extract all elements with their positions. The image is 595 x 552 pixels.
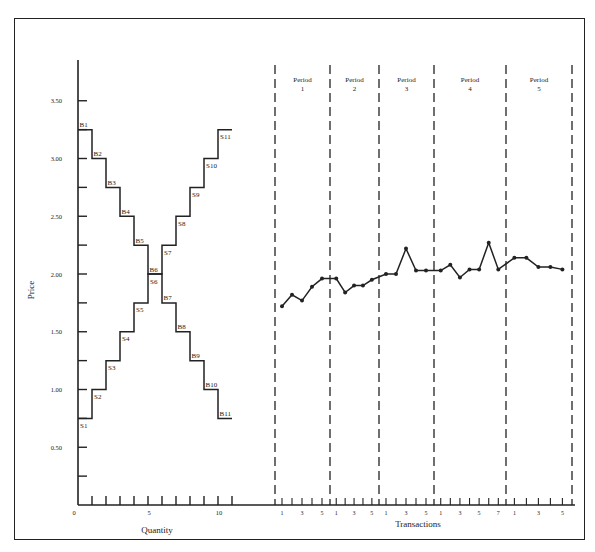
transaction-tick-label: 3 <box>301 510 304 516</box>
transaction-point <box>458 275 462 279</box>
period-label: Period <box>293 76 312 84</box>
transaction-point <box>352 284 356 288</box>
transaction-point <box>487 241 491 245</box>
y-tick-label: 3.50 <box>51 97 62 104</box>
period-label: Period <box>397 76 416 84</box>
buyer-label: B8 <box>178 323 187 331</box>
transaction-tick-label: 7 <box>497 510 500 516</box>
seller-label: S9 <box>192 191 200 199</box>
seller-label: S4 <box>122 335 130 343</box>
transaction-point <box>384 272 388 276</box>
transaction-tick-label: 5 <box>321 510 324 516</box>
y-tick-label: 2.00 <box>51 271 62 278</box>
transaction-point <box>468 267 472 271</box>
price-axis-label: Price <box>26 281 36 300</box>
buyer-label: B3 <box>108 179 117 187</box>
buyer-label: B9 <box>192 352 201 360</box>
x-tick-label: 5 <box>147 509 150 516</box>
transaction-price-line <box>282 243 562 307</box>
period-number: 3 <box>405 85 409 93</box>
buyer-label: B11 <box>220 410 232 418</box>
period-label: Period <box>345 76 364 84</box>
transaction-tick-label: 1 <box>281 510 284 516</box>
seller-label: S2 <box>94 393 102 401</box>
transaction-point <box>280 304 284 308</box>
transaction-point <box>334 277 338 281</box>
transaction-point <box>548 265 552 269</box>
seller-label: S6 <box>150 278 158 286</box>
transaction-tick-label: 3 <box>405 510 408 516</box>
buyer-label: B6 <box>150 266 159 274</box>
transaction-point <box>448 263 452 267</box>
period-dividers: Period1135Period2135Period3135Period4135… <box>275 65 572 516</box>
transaction-point <box>290 293 294 297</box>
period-number: 1 <box>301 85 305 93</box>
transaction-point <box>536 265 540 269</box>
transaction-point <box>512 256 516 260</box>
transaction-point <box>560 267 564 271</box>
seller-label: S7 <box>164 249 172 257</box>
transaction-tick-label: 5 <box>561 510 564 516</box>
transaction-tick-label: 5 <box>478 510 481 516</box>
origin-label: 0 <box>72 509 75 516</box>
y-tick-label: 3.00 <box>51 155 62 162</box>
seller-label: S10 <box>206 162 217 170</box>
buyer-label: B10 <box>206 381 218 389</box>
transaction-tick-label: 1 <box>385 510 388 516</box>
period-number: 4 <box>468 85 472 93</box>
transaction-tick-label: 3 <box>458 510 461 516</box>
transaction-point <box>496 267 500 271</box>
y-tick-label: 2.50 <box>51 213 62 220</box>
transaction-point <box>439 269 443 273</box>
seller-label: S5 <box>136 306 144 314</box>
y-tick-label: 0.50 <box>51 444 62 451</box>
buyer-label: B5 <box>136 237 145 245</box>
transactions-axis-label: Transactions <box>395 519 441 529</box>
period-label: Period <box>461 76 480 84</box>
transaction-tick-label: 5 <box>425 510 428 516</box>
supply-step-line <box>78 130 232 419</box>
transaction-point <box>394 272 398 276</box>
transaction-point <box>477 267 481 271</box>
transaction-tick-label: 3 <box>537 510 540 516</box>
transaction-point <box>361 284 365 288</box>
transaction-tick-label: 5 <box>370 510 373 516</box>
transaction-point <box>524 256 528 260</box>
transaction-tick-label: 3 <box>353 510 356 516</box>
transaction-point <box>370 278 374 282</box>
quantity-axis-label: Quantity <box>141 525 173 535</box>
x-tick-label: 10 <box>216 509 223 516</box>
transaction-point <box>310 285 314 289</box>
y-tick-label: 1.50 <box>51 328 62 335</box>
market-experiment-chart: 0.501.001.502.002.503.003.500510 B1B2B3B… <box>0 0 595 552</box>
transaction-tick-label: 1 <box>335 510 338 516</box>
transaction-point <box>300 299 304 303</box>
y-tick-label: 1.00 <box>51 386 62 393</box>
period-number: 5 <box>537 85 541 93</box>
seller-label: S8 <box>178 220 186 228</box>
supply-demand-steps: B1B2B3B4B5B6B7B8B9B10B11S1S2S3S4S5S6S7S8… <box>78 121 232 430</box>
buyer-label: B4 <box>122 208 131 216</box>
seller-label: S1 <box>80 422 88 430</box>
transaction-point <box>404 247 408 251</box>
transaction-tick-label: 1 <box>513 510 516 516</box>
transaction-point <box>343 290 347 294</box>
period-number: 2 <box>353 85 357 93</box>
transaction-point <box>414 269 418 273</box>
seller-label: S3 <box>108 364 116 372</box>
buyer-label: B7 <box>164 294 173 302</box>
transaction-price-series <box>280 241 564 309</box>
seller-label: S11 <box>220 133 231 141</box>
period-label: Period <box>530 76 549 84</box>
buyer-label: B1 <box>80 121 89 129</box>
buyer-label: B2 <box>94 150 103 158</box>
transaction-tick-label: 1 <box>439 510 442 516</box>
transaction-point <box>424 269 428 273</box>
transaction-point <box>320 277 324 281</box>
